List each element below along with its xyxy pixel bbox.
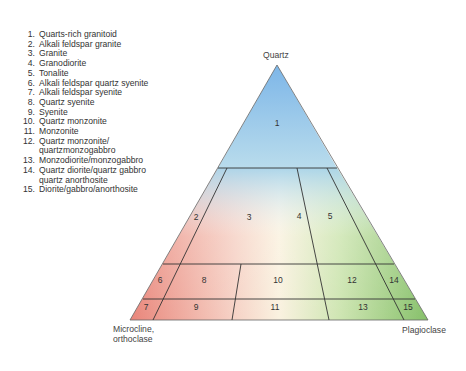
region-label-12: 12	[347, 275, 357, 285]
region-label-8: 8	[202, 275, 207, 285]
region-label-2: 2	[194, 212, 199, 222]
region-label-11: 11	[271, 302, 280, 312]
region-label-9: 9	[194, 302, 199, 312]
region-label-7: 7	[144, 302, 149, 312]
region-label-5: 5	[328, 211, 333, 221]
apex-label-quartz: Quartz	[263, 50, 289, 60]
region-label-4: 4	[297, 211, 302, 221]
corner-label-alkali-feldspar: Microcline, orthoclase	[113, 324, 154, 344]
region-label-1: 1	[275, 118, 280, 128]
region-label-3: 3	[247, 212, 252, 222]
region-1	[218, 65, 337, 168]
region-label-13: 13	[358, 302, 368, 312]
region-label-10: 10	[273, 275, 283, 285]
corner-label-plagioclase: Plagioclase	[402, 325, 446, 335]
region-label-15: 15	[403, 302, 413, 312]
qap-ternary-diagram: 1 2 3 4 5 6 7 8 9 10 11 12 13 14 15	[0, 0, 466, 371]
region-label-6: 6	[158, 275, 163, 285]
region-label-14: 14	[389, 275, 399, 285]
